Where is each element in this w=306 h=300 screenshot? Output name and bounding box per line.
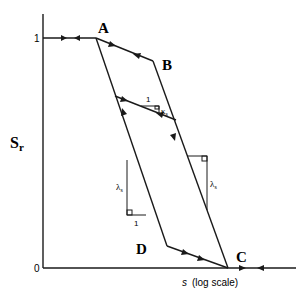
- arrow-left-icon: [74, 35, 80, 41]
- arrow-right-icon: [108, 41, 116, 47]
- y-axis-label: Sr: [10, 134, 24, 153]
- right-angle-icon: [127, 210, 132, 215]
- right-angle-icon: [202, 156, 207, 161]
- lambda-left-run-label: 1: [134, 219, 139, 228]
- arrow-right-icon: [181, 249, 189, 255]
- scanning-line-DC: [167, 246, 228, 268]
- point-B-label: B: [162, 57, 172, 73]
- y-tick-1: 1: [34, 33, 40, 44]
- arrow-right-icon: [61, 35, 67, 41]
- right-angle-icon: [155, 106, 159, 109]
- y-tick-0: 0: [34, 263, 40, 274]
- hysteresis-diagram: 1 0 Sr A B C D 1 κs λs 1 λs s(log scale): [0, 0, 306, 300]
- arrow-down-icon: [170, 133, 176, 141]
- point-C-label: C: [236, 249, 247, 265]
- arrow-left-icon: [257, 265, 264, 271]
- x-axis-label: s(log scale): [182, 277, 238, 288]
- kappa-label: κs: [161, 106, 169, 117]
- arrow-right-icon: [197, 255, 205, 261]
- point-D-label: D: [136, 241, 147, 257]
- arrow-right-icon: [239, 265, 246, 271]
- kappa-run-label: 1: [146, 95, 151, 104]
- scanning-line-AB: [96, 38, 153, 61]
- lambda-left-label: λs: [116, 182, 123, 193]
- lambda-right-label: λs: [210, 179, 217, 190]
- arrow-left-icon: [133, 53, 141, 59]
- point-A-label: A: [98, 20, 109, 36]
- arrow-right-icon: [120, 96, 128, 102]
- arrow-up-icon: [121, 108, 127, 116]
